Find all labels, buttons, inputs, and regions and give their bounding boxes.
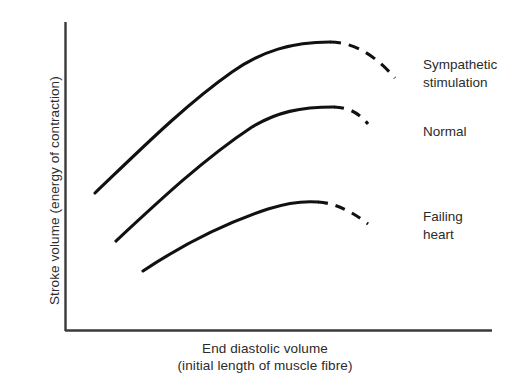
y-axis-label: Stroke volume (energy of contraction) bbox=[46, 5, 63, 305]
curve-label-sympathetic: Sympathetic stimulation bbox=[423, 56, 497, 92]
curve-label-failing: Failing heart bbox=[423, 208, 463, 244]
curve-normal-solid bbox=[116, 107, 334, 241]
curve-failing-dashed bbox=[318, 202, 368, 224]
curve-label-normal: Normal bbox=[423, 123, 467, 141]
x-axis-label-line1: End diastolic volume bbox=[150, 340, 380, 357]
curve-failing-solid bbox=[143, 202, 318, 271]
curve-normal-dashed bbox=[334, 107, 368, 124]
x-axis-label: End diastolic volume (initial length of … bbox=[150, 340, 380, 374]
x-axis-label-line2: (initial length of muscle fibre) bbox=[150, 357, 380, 374]
curve-sympathetic-dashed bbox=[330, 42, 395, 78]
curve-sympathetic-solid bbox=[95, 42, 330, 193]
chart-figure: Stroke volume (energy of contraction) En… bbox=[0, 0, 512, 390]
